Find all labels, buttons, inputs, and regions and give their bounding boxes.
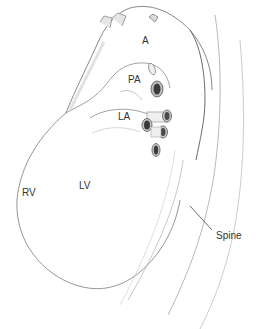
heart-diagram bbox=[0, 0, 256, 329]
aortic-arch-outer bbox=[66, 6, 212, 113]
pa-branch-opening bbox=[147, 62, 157, 75]
arch-branch-1 bbox=[100, 16, 112, 28]
heart-outline bbox=[17, 113, 180, 289]
arch-branch-3 bbox=[149, 14, 158, 22]
label-aorta: A bbox=[142, 36, 149, 46]
label-spine: Spine bbox=[216, 231, 242, 241]
label-left-atrium: LA bbox=[118, 112, 130, 122]
spine-line-back bbox=[200, 40, 244, 329]
arch-branch-2 bbox=[112, 13, 126, 26]
label-pulmonary-artery: PA bbox=[128, 75, 141, 85]
label-right-ventricle: RV bbox=[22, 188, 36, 198]
spine-leader-line bbox=[190, 206, 212, 230]
spine-line-front bbox=[168, 15, 220, 315]
label-left-ventricle: LV bbox=[79, 181, 91, 191]
